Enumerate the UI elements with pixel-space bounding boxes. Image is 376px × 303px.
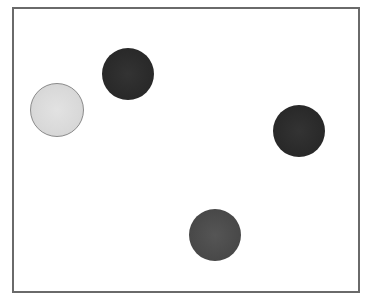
dark-circle-top <box>102 48 154 100</box>
dark-circle-right <box>273 105 325 157</box>
medium-circle-bottom <box>189 209 241 261</box>
light-circle <box>30 83 84 137</box>
